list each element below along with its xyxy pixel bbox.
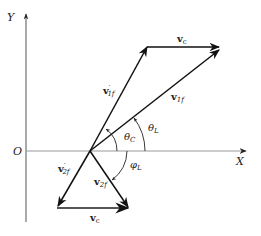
vector-v1f (90, 50, 219, 151)
arc-theta-l (134, 118, 145, 151)
label-theta-c: θC (124, 131, 136, 144)
vector-v1f-prime (90, 47, 147, 151)
label-v2f-prime: v′2f (57, 162, 71, 176)
label-vc-top: vc (176, 33, 187, 46)
vector-v2f-prime (58, 151, 90, 206)
arc-phi-l (112, 151, 127, 180)
label-v1f-prime: v′1f (102, 84, 116, 98)
velocity-vector-diagram: Y X O vc v′1f v1f v′2f v2f vc θC θL φL (0, 0, 261, 236)
label-v2f: v2f (93, 176, 108, 189)
label-vc-bottom: vc (89, 212, 100, 225)
x-axis-label: X (235, 155, 245, 168)
y-axis-label: Y (7, 11, 16, 24)
origin-label: O (13, 145, 22, 158)
label-v1f: v1f (170, 91, 185, 104)
arc-theta-c (106, 129, 117, 151)
label-phi-l: φL (130, 159, 142, 172)
label-theta-l: θL (148, 122, 159, 135)
